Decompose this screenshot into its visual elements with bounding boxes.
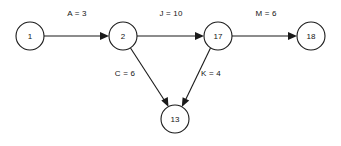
edge-c-arrowhead bbox=[161, 97, 168, 107]
edge-c[interactable]: C = 6 bbox=[115, 48, 169, 107]
node-group: 1 2 17 18 13 bbox=[16, 22, 325, 133]
edge-m-label: M = 6 bbox=[255, 9, 277, 18]
node-18[interactable]: 18 bbox=[297, 22, 325, 50]
edge-k[interactable]: K = 4 bbox=[182, 48, 221, 107]
node-2-label: 2 bbox=[121, 32, 126, 41]
node-2[interactable]: 2 bbox=[109, 22, 137, 50]
node-17[interactable]: 17 bbox=[204, 22, 232, 50]
network-diagram-canvas: A = 3 J = 10 M = 6 C = 6 bbox=[0, 0, 341, 146]
edge-j-arrowhead bbox=[195, 32, 204, 40]
node-17-label: 17 bbox=[214, 32, 223, 41]
edge-j[interactable]: J = 10 bbox=[137, 9, 204, 41]
node-18-label: 18 bbox=[307, 32, 316, 41]
node-13-label: 13 bbox=[171, 115, 180, 124]
edge-j-label: J = 10 bbox=[159, 9, 183, 18]
edge-a-label: A = 3 bbox=[67, 9, 87, 18]
node-1[interactable]: 1 bbox=[16, 22, 44, 50]
edge-a-arrowhead bbox=[100, 32, 109, 40]
network-diagram-svg: A = 3 J = 10 M = 6 C = 6 bbox=[0, 0, 341, 146]
node-13[interactable]: 13 bbox=[161, 105, 189, 133]
edge-a[interactable]: A = 3 bbox=[44, 9, 109, 41]
edge-c-line bbox=[131, 48, 166, 102]
edge-k-label: K = 4 bbox=[201, 69, 221, 78]
edge-k-arrowhead bbox=[182, 97, 189, 107]
edge-c-label: C = 6 bbox=[115, 69, 136, 78]
edge-m[interactable]: M = 6 bbox=[232, 9, 297, 41]
edge-group: A = 3 J = 10 M = 6 C = 6 bbox=[44, 9, 297, 108]
edge-m-arrowhead bbox=[288, 32, 297, 40]
node-1-label: 1 bbox=[28, 32, 33, 41]
